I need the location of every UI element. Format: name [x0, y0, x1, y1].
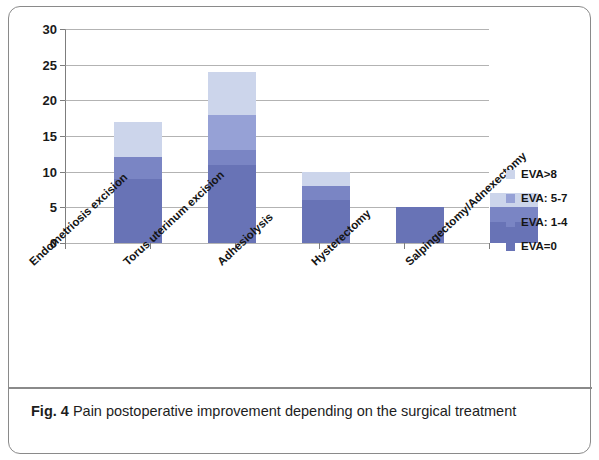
x-axis-tick-mark — [489, 243, 490, 249]
y-axis-tick-mark — [60, 65, 65, 66]
legend-item-label: EVA>8 — [521, 168, 557, 180]
y-axis-tick-label: 10 — [43, 164, 57, 179]
y-axis-tick-label: 5 — [50, 200, 57, 215]
legend-item-label: EVA: 1-4 — [521, 216, 567, 228]
figure-frame: 051015202530 Endometriosis excisionTorus… — [8, 6, 591, 454]
figure-caption-text: Pain postoperative improvement depending… — [73, 403, 516, 419]
figure-number: Fig. 4 — [31, 403, 69, 419]
bar-segment[interactable] — [114, 122, 162, 158]
bar-segment[interactable] — [208, 115, 256, 151]
bar-segment[interactable] — [302, 186, 350, 200]
legend-item[interactable]: EVA=0 — [506, 234, 590, 258]
y-axis-tick-mark — [60, 172, 65, 173]
y-axis-tick-mark — [60, 207, 65, 208]
legend-item[interactable]: EVA>8 — [506, 162, 590, 186]
bar-segment[interactable] — [208, 72, 256, 115]
chart-legend: EVA>8EVA: 5-7EVA: 1-4EVA=0 — [506, 162, 590, 258]
legend-item-label: EVA: 5-7 — [521, 192, 567, 204]
legend-item-label: EVA=0 — [521, 240, 557, 252]
legend-swatch-icon — [506, 218, 515, 227]
legend-item[interactable]: EVA: 5-7 — [506, 186, 590, 210]
y-axis-tick-label: 20 — [43, 93, 57, 108]
y-axis-tick-label: 25 — [43, 57, 57, 72]
legend-item[interactable]: EVA: 1-4 — [506, 210, 590, 234]
x-axis-tick-mark — [404, 243, 405, 249]
legend-swatch-icon — [506, 242, 515, 251]
y-axis-tick-label: 30 — [43, 22, 57, 37]
bar-group[interactable] — [208, 72, 256, 243]
y-axis-tick-mark — [60, 100, 65, 101]
y-axis-tick-label: 15 — [43, 129, 57, 144]
y-axis-tick-mark — [60, 29, 65, 30]
gridline — [65, 65, 489, 66]
bar-segment[interactable] — [208, 150, 256, 164]
gridline — [65, 29, 489, 30]
gridline — [65, 100, 489, 101]
bar-segment[interactable] — [302, 172, 350, 186]
legend-swatch-icon — [506, 170, 515, 179]
figure-caption: Fig. 4 Pain postoperative improvement de… — [31, 401, 521, 422]
caption-divider — [9, 387, 592, 389]
plot-area: 051015202530 — [65, 29, 489, 243]
x-axis-tick-mark — [65, 243, 66, 249]
chart-area: 051015202530 Endometriosis excisionTorus… — [9, 7, 592, 379]
y-axis-tick-mark — [60, 136, 65, 137]
legend-swatch-icon — [506, 194, 515, 203]
